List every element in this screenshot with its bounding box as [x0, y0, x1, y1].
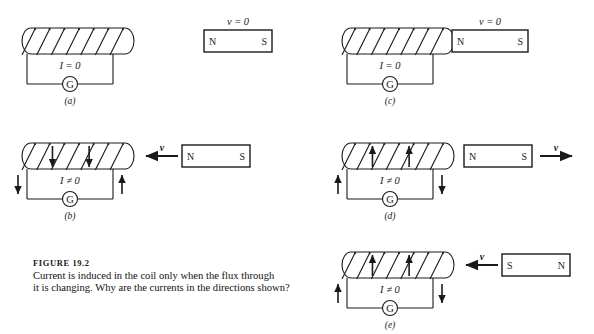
magnet-body-a	[204, 30, 272, 52]
coil-winding-node	[442, 143, 444, 145]
coil-winding-node	[413, 28, 415, 30]
coil-winding-node	[354, 143, 356, 145]
coil-winding-node	[63, 28, 65, 30]
coil-winding	[371, 253, 384, 279]
coil-winding	[342, 144, 355, 170]
galvanometer-label: G	[386, 79, 394, 90]
coil-winding-node	[442, 28, 444, 30]
magnet-body-d	[464, 145, 532, 167]
coil-cap-right	[445, 143, 454, 169]
panel-label-c: (c)	[385, 96, 396, 107]
coil-winding	[81, 29, 94, 55]
coil-winding	[371, 29, 384, 55]
panel-label-b: (b)	[64, 211, 75, 222]
coil-winding	[357, 29, 370, 55]
current-label-d: I ≠ 0	[379, 175, 401, 186]
coil-winding-node	[383, 28, 385, 30]
coil-winding	[415, 253, 428, 279]
panel-label-d: (d)	[384, 211, 395, 222]
coil-cap-right	[445, 252, 454, 278]
coil-winding-node	[93, 143, 95, 145]
coil-winding-node	[369, 28, 371, 30]
coil-winding	[110, 29, 123, 55]
figure-caption: FIGURE 19.2 Current is induced in the co…	[33, 258, 291, 295]
coil-winding	[37, 144, 50, 170]
coil-winding	[371, 144, 384, 170]
coil-winding	[66, 144, 79, 170]
panel-d: GI ≠ 0NSv(d)	[338, 142, 572, 222]
magnet-body-c	[452, 30, 528, 52]
magnet-pole-right-e: N	[558, 260, 565, 271]
coil-winding-node	[398, 143, 400, 145]
coil-winding	[95, 29, 108, 55]
coil-winding	[430, 253, 443, 279]
coil-winding	[386, 29, 399, 55]
coil-winding-node	[427, 28, 429, 30]
coil-winding-node	[354, 252, 356, 254]
magnet-pole-left-b: N	[187, 151, 194, 162]
velocity-label-b: v	[160, 142, 165, 153]
velocity-label-d: v	[554, 142, 559, 153]
magnet-pole-right-d: S	[521, 151, 527, 162]
current-label-a: I = 0	[58, 60, 81, 71]
velocity-label-e: v	[480, 251, 485, 262]
magnet-pole-left-a: N	[209, 36, 216, 47]
coil-winding-node	[369, 143, 371, 145]
coil-winding	[401, 144, 414, 170]
figure-caption-line-1: Current is induced in the coil only when…	[33, 270, 291, 282]
coil-winding-node	[354, 28, 356, 30]
coil-winding-node	[49, 28, 51, 30]
coil-winding	[342, 29, 355, 55]
current-label-e: I ≠ 0	[379, 284, 401, 295]
coil-cap-left	[22, 143, 31, 169]
galvanometer	[63, 77, 78, 92]
panel-label-a: (a)	[64, 96, 75, 107]
coil-winding-node	[369, 252, 371, 254]
coil-winding	[22, 144, 35, 170]
coil-winding-node	[49, 143, 51, 145]
coil-winding	[81, 144, 94, 170]
coil-winding-node	[427, 252, 429, 254]
coil-winding-node	[122, 28, 124, 30]
coil-winding	[37, 29, 50, 55]
coil-winding-node	[63, 143, 65, 145]
galvanometer-label: G	[386, 303, 394, 314]
coil-winding	[430, 29, 443, 55]
coil-winding-node	[413, 252, 415, 254]
galvanometer-label: G	[386, 194, 394, 205]
coil-winding-node	[383, 143, 385, 145]
coil-winding-node	[122, 143, 124, 145]
velocity-label-a: v = 0	[227, 16, 250, 27]
coil-winding-node	[78, 143, 80, 145]
galvanometer	[63, 192, 78, 207]
coil-winding	[22, 29, 35, 55]
coil-cap-left	[342, 28, 351, 54]
magnet-pole-left-e: S	[507, 260, 513, 271]
figure-caption-label: FIGURE 19.2	[33, 258, 291, 268]
panel-c: GI = 0NSv = 0(c)	[342, 16, 528, 107]
coil-cap-left	[342, 143, 351, 169]
galvanometer	[383, 301, 398, 316]
current-label-b: I ≠ 0	[59, 175, 81, 186]
panel-e: GI ≠ 0SNv(e)	[338, 251, 570, 331]
figure-caption-line-2: it is changing. Why are the currents in …	[33, 282, 291, 294]
coil-winding-node	[398, 28, 400, 30]
coil-winding	[401, 29, 414, 55]
coil-cap-right	[125, 143, 134, 169]
coil-cap-left	[342, 252, 351, 278]
coil-winding	[415, 29, 428, 55]
coil-winding-node	[398, 252, 400, 254]
coil-winding	[401, 253, 414, 279]
galvanometer	[383, 192, 398, 207]
coil-winding	[357, 253, 370, 279]
magnet-pole-right-b: S	[239, 151, 245, 162]
panel-label-e: (e)	[385, 320, 396, 331]
magnet-pole-right-c: S	[517, 36, 523, 47]
coil-winding	[386, 144, 399, 170]
coil-winding	[430, 144, 443, 170]
magnet-body-b	[182, 145, 250, 167]
coil-winding	[357, 144, 370, 170]
magnet-body-e	[502, 254, 570, 276]
magnet-pole-left-d: N	[469, 151, 476, 162]
coil-winding	[386, 253, 399, 279]
